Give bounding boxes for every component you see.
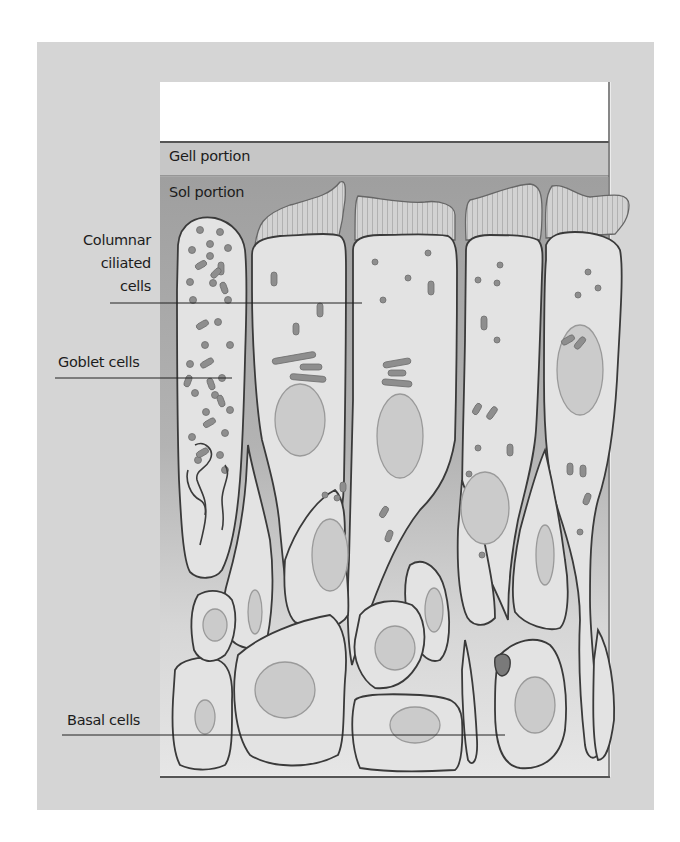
mucus-top [160, 82, 608, 141]
goblet-cells-label: Goblet cells [58, 353, 139, 371]
columnar-label-line3: cells [55, 277, 151, 295]
basal-cells-label: Basal cells [67, 711, 140, 729]
columnar-ciliated-label: Columnar ciliated cells [55, 231, 151, 295]
columnar-label-line1: Columnar [55, 231, 151, 249]
dark-cell [495, 654, 510, 676]
diagram-figure: Gell portion Sol portion Columnar ciliat… [0, 0, 680, 842]
sol-portion-label: Sol portion [169, 184, 244, 200]
gel-portion-label: Gell portion [169, 148, 250, 164]
columnar-label-line2: ciliated [55, 254, 151, 272]
